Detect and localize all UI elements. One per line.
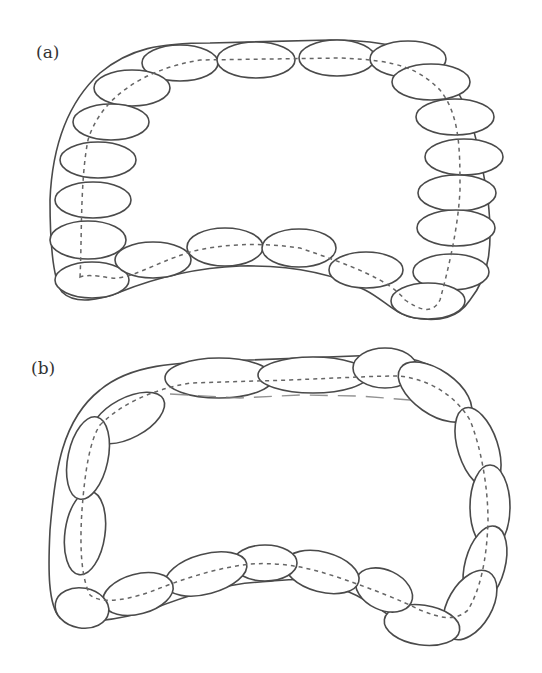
diagram-canvas	[0, 0, 542, 673]
panel-b-diagram	[49, 348, 515, 650]
panel-a-diagram	[50, 40, 503, 319]
